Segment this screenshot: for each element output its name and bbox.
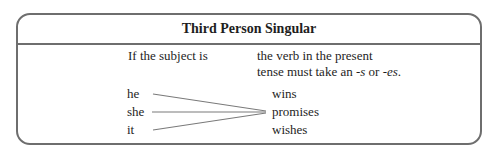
subject-he: he [127,85,139,102]
suffix-s: -s [356,64,365,79]
condition-right-line2: tense must take an -s or -es. [257,63,401,80]
condition-or: or [365,64,382,79]
condition-left-label: If the subject is [128,47,208,64]
condition-right-line2-prefix: tense must take an [257,64,356,79]
verb-wins: wins [272,85,297,102]
verb-wishes: wishes [272,121,307,138]
condition-right-line1: the verb in the present [257,47,373,64]
box-title: Third Person Singular [18,15,480,45]
verb-promises: promises [272,103,319,120]
subject-it: it [127,121,134,138]
suffix-es: -es [383,64,398,79]
subject-she: she [127,103,144,120]
condition-period: . [398,64,401,79]
rule-box: Third Person Singular [16,13,482,145]
